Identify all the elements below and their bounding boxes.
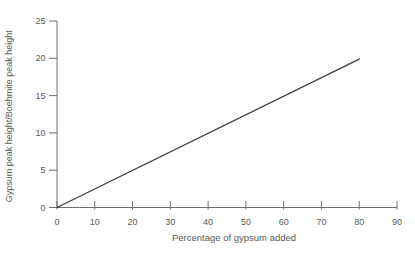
y-tick-label: 5 [40,165,45,175]
x-tick-label: 60 [279,217,289,227]
data-line [57,59,359,207]
chart-figure: 01020304050607080900510152025Percentage … [0,0,415,255]
y-axis-label: Gypsum peak height/Boehmite peak height [4,30,14,203]
y-tick-label: 25 [35,16,45,26]
x-tick-label: 70 [316,217,326,227]
x-tick-label: 30 [165,217,175,227]
x-tick-label: 40 [203,217,213,227]
y-tick-label: 10 [35,128,45,138]
y-tick-label: 0 [40,203,45,213]
x-tick-label: 50 [241,217,251,227]
x-axis-label: Percentage of gypsum added [172,232,296,243]
y-tick-label: 20 [35,53,45,63]
x-tick-label: 10 [90,217,100,227]
x-tick-label: 80 [354,217,364,227]
y-tick-label: 15 [35,91,45,101]
x-tick-label: 0 [54,217,59,227]
line-chart: 01020304050607080900510152025Percentage … [0,0,415,255]
x-tick-label: 20 [128,217,138,227]
x-tick-label: 90 [392,217,402,227]
